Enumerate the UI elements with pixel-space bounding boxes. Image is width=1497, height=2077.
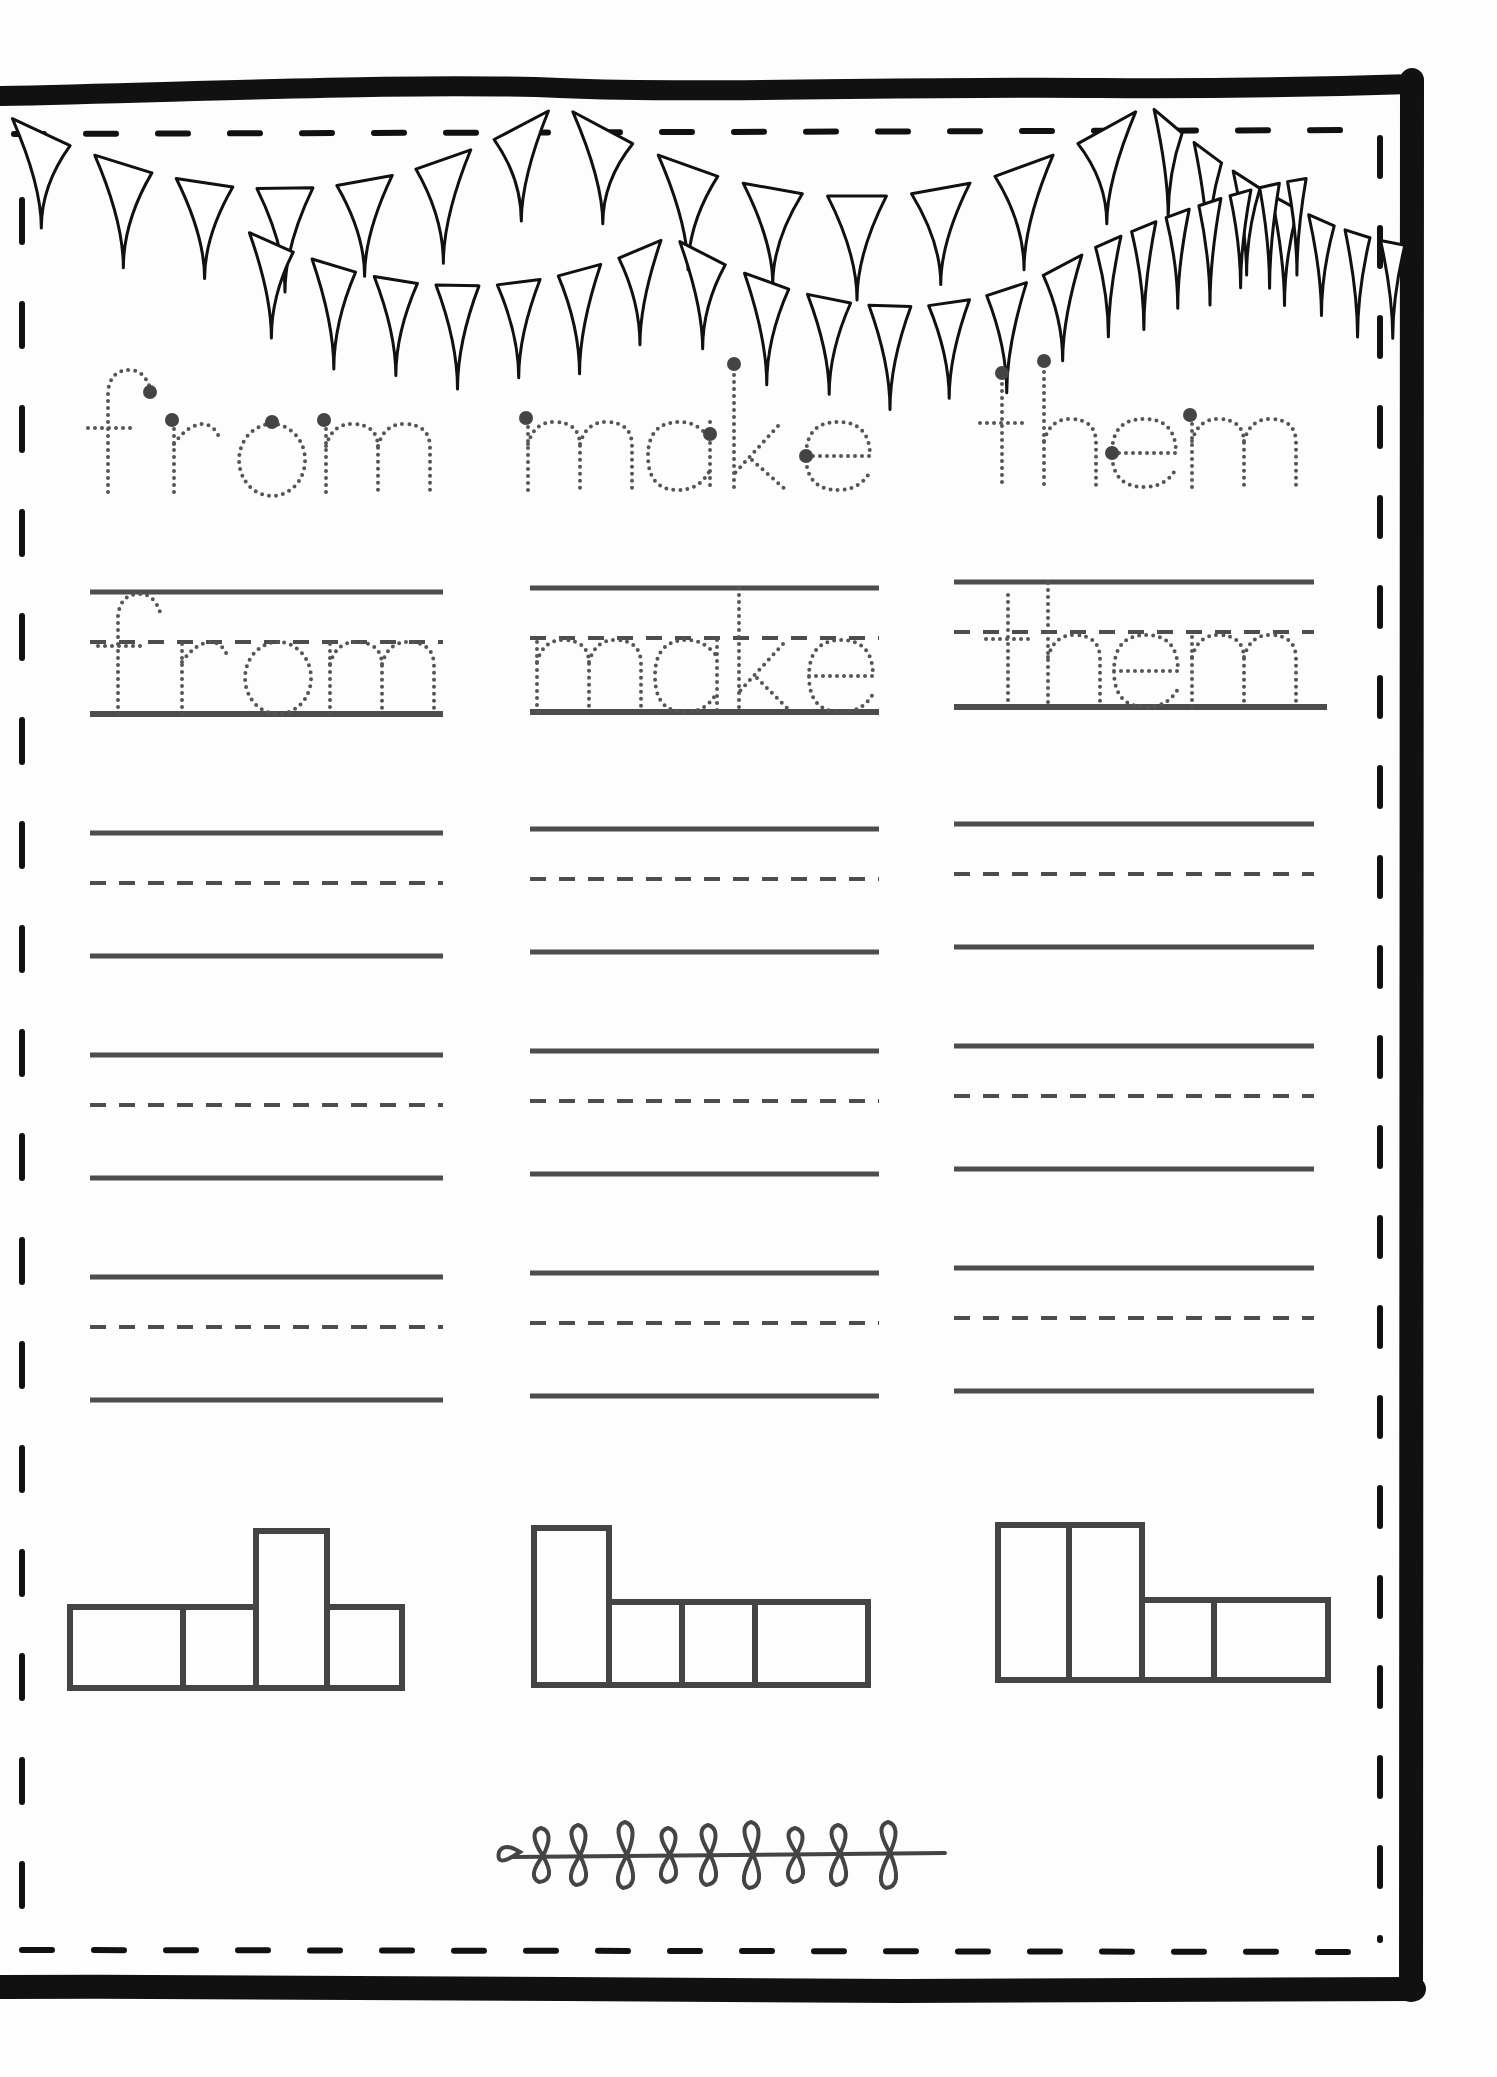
trace-word-from: from [86, 380, 109, 391]
lined-trace-word-from: from [90, 640, 113, 651]
trace-word-make: make [523, 380, 550, 391]
trace-word-them: them [967, 380, 993, 391]
lined-trace-word-make: make [530, 640, 557, 651]
leaf-sprig-icon [0, 0, 1497, 2077]
lined-trace-word-them: them [954, 640, 980, 651]
worksheet-page: Sight word practice from make them from … [0, 0, 1497, 2077]
